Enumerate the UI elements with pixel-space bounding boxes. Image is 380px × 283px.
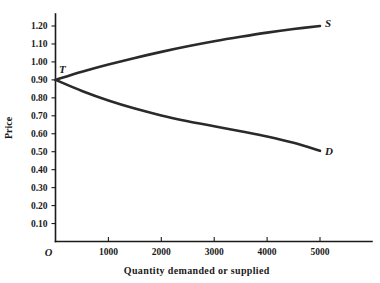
supply-curve-label: S <box>325 17 331 29</box>
x-tick-label: 5000 <box>311 247 330 257</box>
y-tick-label: 0.50 <box>31 147 48 157</box>
x-tick-label: 4000 <box>258 247 277 257</box>
intersection-point-label: T <box>59 63 67 75</box>
y-axis-title: Price <box>3 116 14 139</box>
y-tick-label: 0.80 <box>31 93 48 103</box>
y-tick-label: 0.10 <box>31 219 48 229</box>
demand-curve <box>56 80 321 151</box>
y-tick-label: 1.20 <box>31 21 48 31</box>
y-tick-label: 0.70 <box>31 111 48 121</box>
supply-curve <box>56 26 321 80</box>
origin-label: O <box>45 247 53 258</box>
x-tick-label: 1000 <box>99 247 118 257</box>
demand-curve-label: D <box>324 145 333 157</box>
x-tick-label: 3000 <box>205 247 224 257</box>
x-axis-tick-labels: 10002000300040005000 <box>99 247 330 257</box>
y-tick-label: 0.30 <box>31 183 48 193</box>
plot-area: 0.100.200.300.400.500.600.700.800.901.00… <box>31 14 372 258</box>
supply-demand-chart: 0.100.200.300.400.500.600.700.800.901.00… <box>0 0 380 283</box>
y-axis-tick-labels: 0.100.200.300.400.500.600.700.800.901.00… <box>31 21 48 229</box>
y-tick-label: 1.10 <box>31 39 48 49</box>
y-tick-label: 0.90 <box>31 75 48 85</box>
y-tick-label: 1.00 <box>31 57 48 67</box>
x-axis-title: Quantity demanded or supplied <box>124 265 270 276</box>
y-tick-label: 0.40 <box>31 165 48 175</box>
x-tick-label: 2000 <box>152 247 171 257</box>
chart-canvas: 0.100.200.300.400.500.600.700.800.901.00… <box>0 0 380 283</box>
y-tick-label: 0.60 <box>31 129 48 139</box>
y-tick-label: 0.20 <box>31 201 48 211</box>
